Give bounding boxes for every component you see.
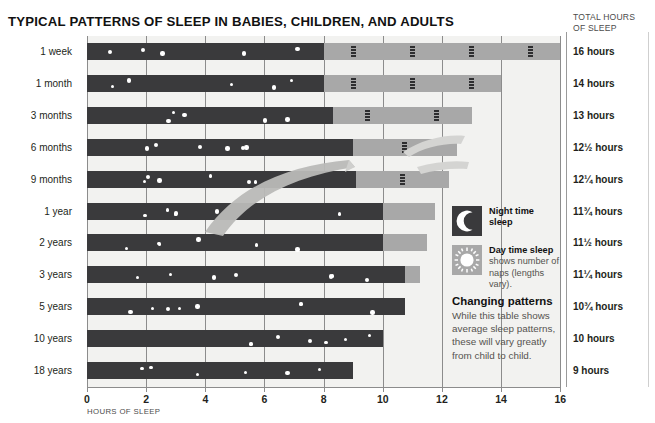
row-label-wrap: 3 years (0, 269, 80, 280)
row-label-1-week: 1 week (0, 46, 72, 57)
moon-icon (452, 206, 482, 236)
star-icon (128, 310, 132, 314)
star-icon (182, 113, 186, 117)
total-hours-1-year: 11¾ hours (573, 206, 622, 217)
star-icon (136, 276, 139, 279)
star-icon (230, 83, 233, 86)
bar-day (324, 75, 501, 92)
star-icon (125, 247, 128, 250)
star-icon (318, 368, 321, 371)
star-icon (166, 119, 170, 123)
bar-night (87, 362, 353, 379)
star-icon (151, 307, 154, 310)
note-body: While this table shows average sleep pat… (452, 309, 564, 362)
bar-night (87, 330, 383, 347)
row-label-5-years: 5 years (0, 301, 72, 312)
nap-marker-icon (410, 46, 415, 57)
row-label-wrap: 3 months (0, 110, 80, 121)
tick-0 (87, 387, 88, 392)
bar-night (87, 107, 333, 124)
bar-day (356, 171, 449, 188)
star-icon (254, 180, 257, 183)
bar-night (87, 171, 356, 188)
row-label-wrap: 1 week (0, 46, 80, 57)
row-label-9-months: 9 months (0, 174, 72, 185)
row-label-wrap: 1 year (0, 206, 80, 217)
bar-day (333, 107, 472, 124)
star-icon (276, 335, 280, 339)
star-icon (196, 237, 200, 241)
star-icon (241, 146, 245, 150)
star-icon (196, 373, 199, 376)
bar-day (324, 43, 561, 60)
star-icon (140, 367, 143, 370)
total-hours-1-month: 14 hours (573, 78, 615, 89)
row-label-wrap: 2 years (0, 237, 80, 248)
total-hours-2-years: 11½ hours (573, 237, 622, 248)
x-axis-label: HOURS OF SLEEP (87, 407, 160, 416)
totals-divider-right (648, 32, 649, 387)
tick-label-6: 6 (262, 393, 268, 405)
star-icon (272, 85, 276, 89)
bar-day (405, 266, 420, 283)
sleep-patterns-chart: TYPICAL PATTERNS OF SLEEP IN BABIES, CHI… (0, 0, 655, 423)
legend-day-title: Day time sleep (489, 245, 564, 256)
row-label-3-months: 3 months (0, 110, 72, 121)
star-icon (166, 307, 170, 311)
row-label-wrap: 18 years (0, 365, 80, 376)
star-icon (290, 79, 293, 82)
totals-column-header: TOTAL HOURS OF SLEEP (573, 12, 635, 33)
star-icon (169, 273, 172, 276)
tick-6 (264, 387, 265, 392)
row-label-2-years: 2 years (0, 237, 72, 248)
legend-night-title2: sleep (489, 217, 564, 228)
nap-marker-icon (410, 78, 415, 89)
tick-14 (501, 387, 502, 392)
sun-icon (452, 245, 482, 275)
tick-label-0: 0 (84, 393, 90, 405)
legend-day-sub1: shows number of (489, 256, 564, 267)
star-icon (143, 214, 146, 217)
totals-header-line2: OF SLEEP (573, 23, 635, 34)
star-icon (225, 146, 229, 150)
row-label-wrap: 1 month (0, 78, 80, 89)
tick-label-12: 12 (436, 393, 448, 405)
star-icon (215, 209, 219, 213)
legend-day-sub2: naps (lengths vary). (489, 268, 564, 291)
bar-night (87, 266, 405, 283)
legend-day: Day time sleep shows number of naps (len… (452, 245, 564, 285)
nap-marker-icon (469, 78, 474, 89)
star-icon (146, 175, 150, 179)
nap-marker-icon (434, 110, 439, 121)
note-title: Changing patterns (452, 294, 564, 308)
total-hours-1-week: 16 hours (573, 46, 615, 57)
page-title: TYPICAL PATTERNS OF SLEEP IN BABIES, CHI… (8, 14, 454, 29)
star-icon (160, 51, 164, 55)
nap-marker-icon (469, 46, 474, 57)
row-label-1-month: 1 month (0, 78, 72, 89)
bar-day (383, 234, 427, 251)
tick-10 (383, 387, 384, 392)
bar-day (353, 139, 457, 156)
total-hours-18-years: 9 hours (573, 365, 609, 376)
star-icon (244, 371, 247, 374)
nap-marker-icon (351, 46, 356, 57)
tick-label-8: 8 (321, 393, 327, 405)
star-icon (329, 274, 333, 278)
star-icon (127, 78, 131, 82)
nap-marker-icon (402, 142, 407, 153)
star-icon (143, 180, 146, 183)
total-hours-3-months: 13 hours (573, 110, 615, 121)
star-icon (174, 211, 178, 215)
star-icon (295, 47, 299, 51)
star-icon (154, 143, 158, 147)
tick-2 (146, 387, 147, 392)
star-icon (157, 178, 161, 182)
row-label-wrap: 10 years (0, 333, 80, 344)
total-hours-3-years: 11¼ hours (573, 269, 622, 280)
row-label-wrap: 9 months (0, 174, 80, 185)
bar-night (87, 43, 324, 60)
bar-night (87, 298, 405, 315)
star-icon (178, 307, 181, 310)
star-icon (111, 85, 114, 88)
